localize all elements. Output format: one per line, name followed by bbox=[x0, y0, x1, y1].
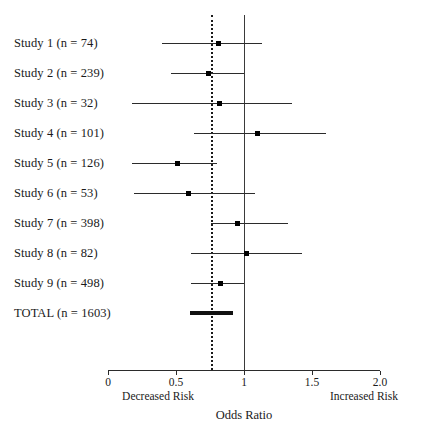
study-label-2: Study 2 (n = 239) bbox=[14, 67, 104, 80]
study-label-8: Study 8 (n = 82) bbox=[14, 247, 98, 260]
study-label-9: Study 9 (n = 498) bbox=[14, 277, 104, 290]
study-label-4: Study 4 (n = 101) bbox=[14, 127, 104, 140]
point-estimate-marker bbox=[235, 221, 240, 226]
study-label-5: Study 5 (n = 126) bbox=[14, 157, 104, 170]
study-label-total: TOTAL (n = 1603) bbox=[14, 307, 111, 320]
x-axis-tick bbox=[244, 371, 245, 375]
summary-interval-bar bbox=[190, 311, 234, 315]
point-estimate-marker bbox=[218, 281, 223, 286]
confidence-interval-line bbox=[211, 223, 287, 224]
point-estimate-marker bbox=[206, 71, 211, 76]
confidence-interval-line bbox=[132, 103, 291, 104]
forest-plot: Study 1 (n = 74)Study 2 (n = 239)Study 3… bbox=[0, 0, 422, 426]
axis-title-odds-ratio: Odds Ratio bbox=[216, 409, 273, 422]
x-axis-tick bbox=[176, 371, 177, 375]
x-axis-tick bbox=[380, 371, 381, 375]
point-estimate-marker bbox=[217, 101, 222, 106]
x-axis-tick-label: 1 bbox=[241, 377, 247, 389]
x-axis-tick bbox=[312, 371, 313, 375]
study-label-3: Study 3 (n = 32) bbox=[14, 97, 98, 110]
point-estimate-marker bbox=[216, 41, 221, 46]
x-axis-tick-label: 2.0 bbox=[373, 377, 387, 389]
axis-note-increased-risk: Increased Risk bbox=[330, 391, 398, 403]
x-axis-tick-label: 0 bbox=[105, 377, 111, 389]
point-estimate-marker bbox=[244, 251, 249, 256]
study-label-6: Study 6 (n = 53) bbox=[14, 187, 98, 200]
x-axis-tick-label: 0.5 bbox=[169, 377, 183, 389]
point-estimate-marker bbox=[186, 191, 191, 196]
study-label-7: Study 7 (n = 398) bbox=[14, 217, 104, 230]
axis-note-decreased-risk: Decreased Risk bbox=[122, 391, 194, 403]
point-estimate-marker bbox=[175, 161, 180, 166]
x-axis-tick-label: 1.5 bbox=[305, 377, 319, 389]
study-label-1: Study 1 (n = 74) bbox=[14, 37, 98, 50]
confidence-interval-line bbox=[162, 43, 261, 44]
x-axis-tick bbox=[108, 371, 109, 375]
confidence-interval-line bbox=[134, 193, 255, 194]
point-estimate-marker bbox=[255, 131, 260, 136]
